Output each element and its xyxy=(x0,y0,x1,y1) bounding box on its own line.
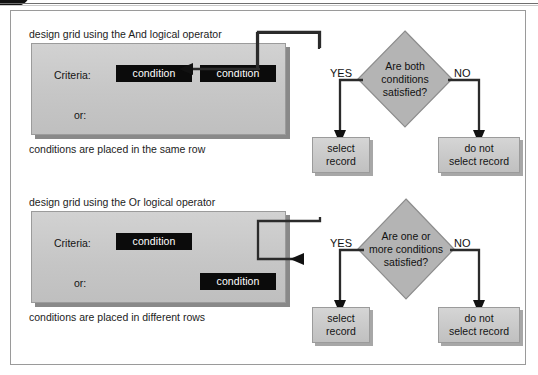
or-outcome-do-not-select-record: do not select record xyxy=(438,307,520,343)
page-top-rule-secondary xyxy=(0,5,538,6)
or-outcome-1-line-2: record xyxy=(326,325,356,338)
or-outcome-select-record: select record xyxy=(312,307,370,343)
or-outcome-1-line-1: select xyxy=(326,312,356,325)
or-outcome-2-line-2: select record xyxy=(449,325,509,338)
page-header-strip xyxy=(34,0,334,4)
or-outcome-2-line-1: do not xyxy=(449,312,509,325)
figure-panel: design grid using the And logical operat… xyxy=(10,10,526,365)
